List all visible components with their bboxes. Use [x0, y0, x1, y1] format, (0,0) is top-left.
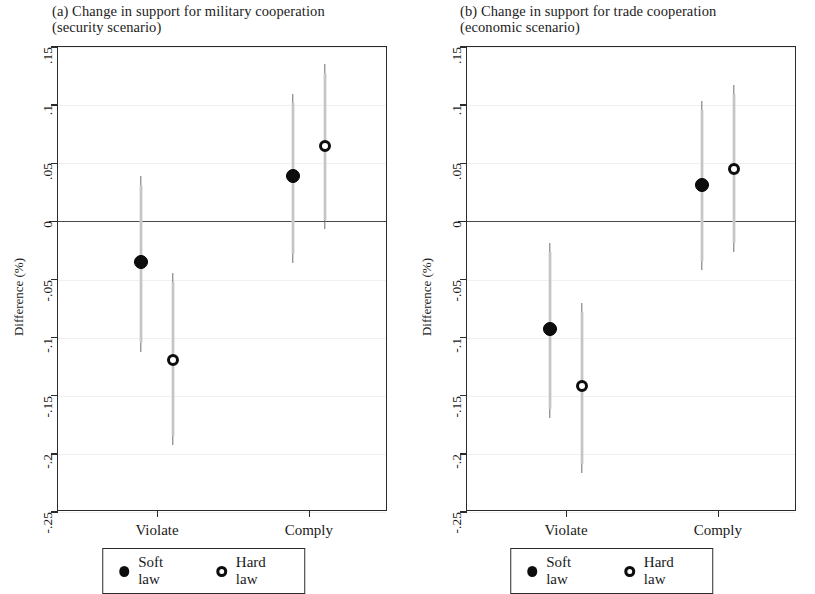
gridline [58, 105, 386, 106]
panel-a-title: (a) Change in support for military coope… [52, 3, 404, 35]
confidence-interval-whisker [140, 176, 141, 185]
confidence-interval-whisker [292, 94, 293, 103]
legend-item-hard-law: Hard law [624, 554, 696, 588]
confidence-interval-whisker [549, 243, 550, 252]
panel-a-legend: Soft law Hard law [102, 548, 306, 594]
gridline [58, 454, 386, 455]
gridline [58, 163, 386, 164]
x-axis-tick [157, 510, 158, 517]
confidence-interval-whisker [172, 273, 173, 282]
panel-a-y-axis-label: Difference (%) [0, 102, 15, 232]
confidence-interval-whisker [140, 343, 141, 352]
data-point-hard-law [319, 140, 331, 152]
confidence-interval-whisker [581, 303, 582, 312]
legend-label-soft-law: Soft law [138, 554, 186, 588]
zero-reference-line [58, 221, 386, 222]
legend-label-soft-law: Soft law [546, 554, 594, 588]
x-axis-tick-label: Comply [694, 522, 742, 539]
confidence-interval-whisker [701, 261, 702, 270]
panel-a-title-line1: (a) Change in support for military coope… [52, 3, 325, 19]
legend-item-hard-law: Hard law [216, 554, 288, 588]
panel-b-title-line2: (economic scenario) [460, 19, 812, 35]
panel-a-plot-area: .15.1.050-.05-.1-.15-.2-.25ViolateComply [57, 46, 387, 511]
zero-reference-line [467, 221, 795, 222]
panel-b-title-line1: (b) Change in support for trade cooperat… [460, 3, 716, 19]
confidence-interval-whisker [324, 220, 325, 229]
gridline [467, 396, 795, 397]
gridline [467, 280, 795, 281]
gridline [467, 454, 795, 455]
legend-item-soft-law: Soft law [527, 554, 594, 588]
confidence-interval-whisker [733, 85, 734, 94]
confidence-interval-whisker [701, 101, 702, 110]
x-axis-tick-label: Comply [285, 522, 333, 539]
legend-label-hard-law: Hard law [236, 554, 288, 588]
x-axis-tick [309, 510, 310, 517]
legend-label-hard-law: Hard law [644, 554, 696, 588]
confidence-interval-whisker [172, 436, 173, 445]
gridline [58, 280, 386, 281]
panel-b: (b) Change in support for trade cooperat… [408, 0, 815, 590]
gridline [467, 47, 795, 48]
gridline [467, 105, 795, 106]
confidence-interval-whisker [581, 464, 582, 473]
data-point-hard-law [167, 354, 179, 366]
data-point-hard-law [576, 380, 588, 392]
open-circle-icon [624, 566, 635, 577]
data-point-soft-law [695, 178, 709, 192]
x-axis-tick [718, 510, 719, 517]
panel-a-title-line2: (security scenario) [52, 19, 404, 35]
confidence-interval-whisker [733, 243, 734, 252]
gridline [58, 338, 386, 339]
x-axis-tick [566, 510, 567, 517]
data-point-soft-law [286, 169, 300, 183]
x-axis-tick-label: Violate [544, 522, 587, 539]
gridline [467, 512, 795, 513]
panel-b-title: (b) Change in support for trade cooperat… [460, 3, 812, 35]
data-point-soft-law [134, 255, 148, 269]
gridline [58, 512, 386, 513]
gridline [467, 163, 795, 164]
panel-b-plot-area: .15.1.050-.05-.1-.15-.2-.25ViolateComply [466, 46, 796, 511]
confidence-interval-whisker [324, 64, 325, 73]
gridline [58, 396, 386, 397]
gridline [467, 338, 795, 339]
legend-item-soft-law: Soft law [119, 554, 186, 588]
panel-b-legend: Soft law Hard law [510, 548, 714, 594]
confidence-interval-whisker [549, 409, 550, 418]
open-circle-icon [216, 566, 227, 577]
panel-a: (a) Change in support for military coope… [0, 0, 407, 590]
confidence-interval-whisker [292, 254, 293, 263]
data-point-soft-law [543, 322, 557, 336]
panel-b-y-axis-label: Difference (%) [407, 102, 423, 232]
filled-circle-icon [119, 566, 129, 577]
data-point-hard-law [728, 163, 740, 175]
filled-circle-icon [527, 566, 537, 577]
x-axis-tick-label: Violate [135, 522, 178, 539]
gridline [58, 47, 386, 48]
